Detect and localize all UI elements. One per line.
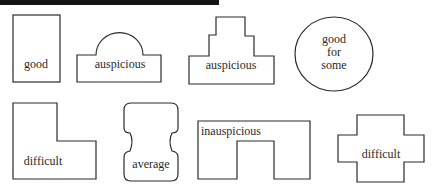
- rectangle-shape: [13, 15, 60, 82]
- rectangle-label: good: [24, 57, 48, 71]
- l-shape-label: difficult: [24, 154, 63, 168]
- pinched-label: average: [132, 157, 169, 171]
- circle-label-line-2: for: [327, 45, 341, 59]
- stepped-label: auspicious: [206, 58, 257, 72]
- circle-label-line-3: some: [321, 58, 346, 72]
- plot-shapes-diagram: good auspicious auspicious good for some…: [0, 0, 434, 189]
- u-shape-label: inauspicious: [201, 124, 261, 138]
- stepped-shape: [189, 17, 274, 84]
- cross-label: difficult: [362, 147, 401, 161]
- dome-label: auspicious: [95, 57, 146, 71]
- circle-label-line-1: good: [322, 32, 346, 46]
